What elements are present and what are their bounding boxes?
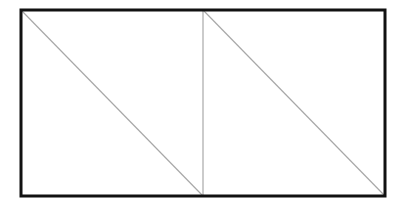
diagram-canvas [0, 0, 396, 207]
background [0, 0, 396, 207]
